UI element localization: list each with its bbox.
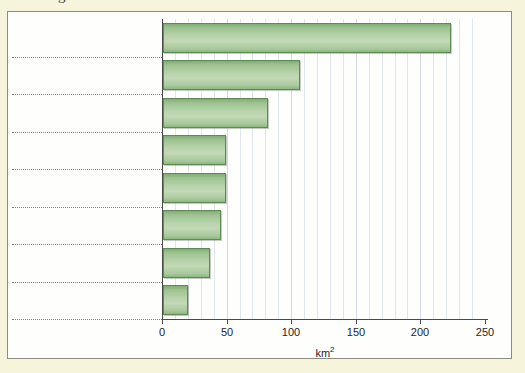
bar bbox=[163, 173, 226, 203]
x-tick bbox=[485, 319, 486, 324]
gridline bbox=[369, 19, 370, 319]
x-tick-label: 200 bbox=[411, 326, 429, 338]
bar bbox=[163, 248, 210, 278]
x-tick bbox=[162, 319, 163, 324]
row-separator bbox=[12, 244, 162, 245]
bar bbox=[163, 60, 300, 90]
gridline bbox=[472, 19, 473, 319]
gridline bbox=[317, 19, 318, 319]
figure-frame: 050100150200250 km2 bbox=[7, 11, 512, 359]
gridline bbox=[304, 19, 305, 319]
x-tick-label: 250 bbox=[476, 326, 494, 338]
x-tick bbox=[356, 319, 357, 324]
row-separator bbox=[12, 319, 162, 320]
row-separator bbox=[12, 57, 162, 58]
bar bbox=[163, 210, 221, 240]
bar bbox=[163, 23, 451, 53]
x-axis-title-superscript: 2 bbox=[330, 345, 334, 354]
x-tick bbox=[227, 319, 228, 324]
row-separator bbox=[12, 132, 162, 133]
gridline bbox=[459, 19, 460, 319]
gridline bbox=[433, 19, 434, 319]
x-tick-label: 100 bbox=[282, 326, 300, 338]
row-separator bbox=[12, 282, 162, 283]
gridline bbox=[407, 19, 408, 319]
x-tick bbox=[291, 319, 292, 324]
row-separator bbox=[12, 169, 162, 170]
gridline bbox=[395, 19, 396, 319]
gridline bbox=[330, 19, 331, 319]
bar-chart-plot-area: 050100150200250 km2 bbox=[8, 12, 511, 358]
row-separator bbox=[12, 94, 162, 95]
bar bbox=[163, 285, 188, 315]
bar bbox=[163, 135, 226, 165]
x-tick-label: 150 bbox=[347, 326, 365, 338]
x-tick-label: 0 bbox=[159, 326, 165, 338]
cropped-caption-glyph: g bbox=[58, 0, 66, 3]
x-axis-title: km2 bbox=[162, 345, 488, 359]
gridline bbox=[420, 19, 421, 319]
row-separator bbox=[12, 207, 162, 208]
gridline bbox=[356, 19, 357, 319]
gridline bbox=[382, 19, 383, 319]
x-axis-line bbox=[162, 319, 488, 320]
bar bbox=[163, 98, 268, 128]
gridline bbox=[343, 19, 344, 319]
x-tick bbox=[420, 319, 421, 324]
x-tick-label: 50 bbox=[221, 326, 233, 338]
gridline bbox=[446, 19, 447, 319]
